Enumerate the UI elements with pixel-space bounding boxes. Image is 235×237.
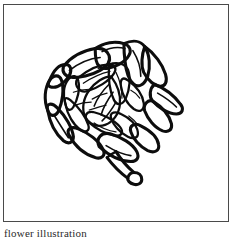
figure-caption: flower illustration [4,227,231,237]
illustration-frame [3,4,229,222]
stem-knob [128,172,142,184]
botanical-line-drawing [4,5,228,221]
figure-page: flower illustration [0,0,235,237]
